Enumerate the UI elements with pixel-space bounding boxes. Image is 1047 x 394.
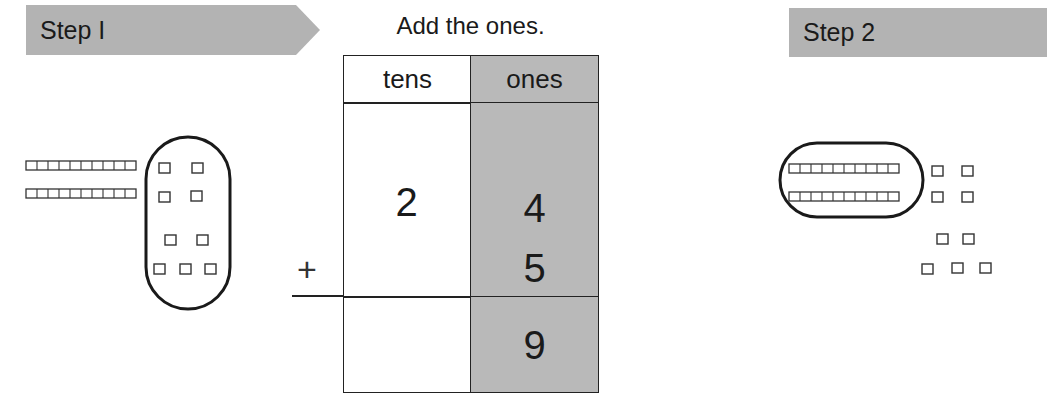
ones-cube-icon bbox=[159, 163, 170, 173]
ones-cube-icon bbox=[922, 264, 933, 274]
ones-cube-icon bbox=[165, 235, 176, 245]
ones-cube-icon bbox=[191, 191, 202, 201]
ones-cube-icon bbox=[952, 263, 963, 273]
step-2-model bbox=[780, 143, 991, 274]
base-ten-models bbox=[0, 0, 1047, 394]
ones-cube-icon bbox=[159, 192, 170, 202]
ones-cube-icon bbox=[962, 166, 973, 176]
tens-rod-icon bbox=[789, 192, 899, 201]
ones-cube-icon bbox=[937, 234, 948, 244]
ones-cube-icon bbox=[205, 264, 216, 274]
ones-cube-icon bbox=[180, 264, 191, 274]
ones-cube-icon bbox=[154, 264, 165, 274]
ones-cube-icon bbox=[197, 235, 208, 245]
tens-rod-icon bbox=[789, 164, 899, 173]
step-1-model bbox=[26, 137, 230, 309]
tens-rod-icon bbox=[26, 189, 136, 198]
ones-cube-icon bbox=[932, 192, 943, 202]
tens-rod-icon bbox=[26, 161, 136, 170]
ones-cube-icon bbox=[192, 163, 203, 173]
ones-cube-icon bbox=[963, 234, 974, 244]
ones-cube-icon bbox=[962, 192, 973, 202]
ones-cube-icon bbox=[932, 166, 943, 176]
tens-circle-icon bbox=[780, 143, 923, 217]
ones-cube-icon bbox=[980, 263, 991, 273]
